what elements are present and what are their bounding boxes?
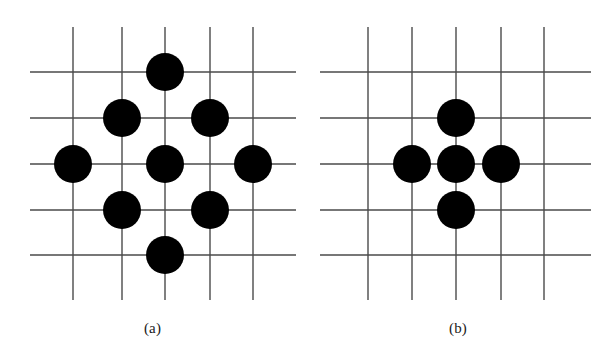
dot-top (437, 99, 475, 137)
dot-lower-left (103, 191, 141, 229)
lattice-diagram-a (0, 0, 305, 310)
figure-container: (a) (b) (0, 0, 611, 362)
dot-upper-left (103, 99, 141, 137)
lattice-dots (54, 53, 272, 274)
panel-b: (b) (305, 0, 611, 362)
dot-right (234, 145, 272, 183)
dot-lower-right (191, 191, 229, 229)
dot-top (146, 53, 184, 91)
caption-a: (a) (0, 320, 305, 337)
panel-a: (a) (0, 0, 305, 362)
dot-upper-right (191, 99, 229, 137)
dot-bottom (146, 236, 184, 274)
dot-left (54, 145, 92, 183)
dot-left (393, 145, 431, 183)
lattice-diagram-b (305, 0, 611, 310)
dot-right (482, 145, 520, 183)
dot-bottom (437, 191, 475, 229)
caption-b: (b) (305, 320, 611, 337)
dot-center (146, 145, 184, 183)
dot-center (437, 145, 475, 183)
